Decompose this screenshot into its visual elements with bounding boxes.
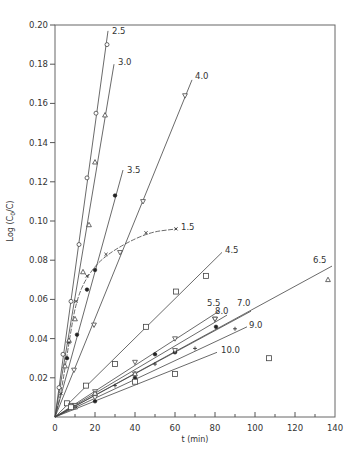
marker-filled-circle: [75, 333, 79, 337]
marker-triangle-down: [183, 94, 188, 98]
marker-triangle-up: [81, 269, 86, 273]
series-labels: 2.53.03.54.01.54.55.58.07.06.59.010.0: [112, 26, 327, 355]
x-tick-label: 140: [327, 423, 343, 433]
x-tick-label: 60: [170, 423, 181, 433]
marker-filled-circle: [153, 352, 157, 356]
marker-square: [113, 362, 118, 367]
series-label-10.0: 10.0: [221, 345, 240, 355]
x-tick-label: 80: [210, 423, 221, 433]
marker-open-circle: [69, 299, 73, 303]
y-tick-label: 0.18: [29, 59, 48, 69]
marker-square: [84, 383, 89, 388]
marker-plus: [233, 327, 237, 331]
x-tick-label: 100: [247, 423, 263, 433]
marker-triangle-up: [103, 113, 108, 117]
kinetics-chart: 0.020.040.060.080.100.120.140.160.180.20…: [0, 0, 361, 460]
marker-square: [174, 289, 179, 294]
marker-x: [104, 253, 107, 256]
series-label-7.0: 7.0: [237, 298, 251, 308]
marker-triangle-down: [141, 200, 146, 204]
series-line-9.0: [55, 327, 247, 417]
series-line-8.0: [55, 315, 227, 417]
y-tick-label: 0.16: [29, 98, 48, 108]
series-label-8.0: 8.0: [215, 306, 229, 316]
marker-triangle-up: [93, 160, 98, 164]
series-label-4.5: 4.5: [225, 245, 239, 255]
x-tick-label: 120: [287, 423, 303, 433]
series-label-3.0: 3.0: [118, 57, 132, 67]
marker-x: [144, 231, 147, 234]
marker-open-circle: [57, 386, 61, 390]
marker-filled-circle: [113, 194, 117, 198]
y-axis: 0.020.040.060.080.100.120.140.160.180.20: [29, 20, 55, 383]
plot-border: [55, 25, 335, 417]
y-tick-label: 0.06: [29, 294, 48, 304]
series-label-3.5: 3.5: [127, 165, 141, 175]
x-tick-label: 20: [90, 423, 101, 433]
marker-open-circle: [94, 111, 98, 115]
y-tick-label: 0.20: [29, 20, 48, 30]
marker-triangle-up: [67, 338, 72, 342]
y-tick-label: 0.08: [29, 255, 48, 265]
marker-square: [267, 356, 272, 361]
marker-plus: [193, 346, 197, 350]
x-axis-title: t (min): [181, 435, 208, 444]
y-tick-label: 0.14: [29, 138, 48, 148]
series-line-4.5: [55, 252, 222, 417]
marker-square: [144, 324, 149, 329]
marker-open-circle: [85, 176, 89, 180]
series-label-6.5: 6.5: [313, 255, 327, 265]
series-label-2.5: 2.5: [112, 26, 126, 36]
marker-open-circle: [105, 43, 109, 47]
marker-square: [173, 371, 178, 376]
marker-square: [204, 273, 209, 278]
series-label-9.0: 9.0: [249, 320, 263, 330]
y-tick-label: 0.04: [29, 334, 48, 344]
marker-square: [69, 405, 74, 410]
plot-frame: [55, 25, 335, 417]
marker-triangle-down: [72, 368, 77, 372]
series-line-2.5: [55, 31, 108, 417]
marker-triangle-up: [326, 277, 331, 281]
series-line-4.0: [55, 80, 192, 417]
marker-filled-circle: [93, 268, 97, 272]
x-axis: 020406080100120140: [52, 412, 343, 433]
marker-filled-circle: [214, 325, 218, 329]
y-axis-title: Log (C0/C): [6, 201, 16, 242]
x-tick-label: 40: [130, 423, 141, 433]
marker-filled-circle: [85, 288, 89, 292]
y-tick-label: 0.10: [29, 216, 48, 226]
y-tick-label: 0.02: [29, 373, 48, 383]
marker-filled-circle: [65, 356, 69, 360]
marker-open-circle: [77, 243, 81, 247]
series-label-4.0: 4.0: [195, 71, 209, 81]
series-label-1.5: 1.5: [181, 222, 195, 232]
y-tick-label: 0.12: [29, 177, 48, 187]
marker-square: [133, 379, 138, 384]
x-tick-label: 0: [52, 423, 57, 433]
marker-open-circle: [61, 352, 65, 356]
